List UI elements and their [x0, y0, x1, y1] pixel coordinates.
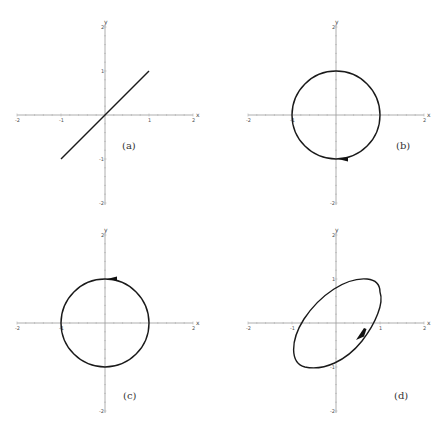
tick-label: -1	[290, 325, 295, 331]
axes	[248, 25, 424, 205]
tick-label: -2	[99, 200, 104, 206]
tick-label: -2	[15, 117, 20, 123]
direction-arrow-icon	[107, 277, 117, 282]
x-axis-label: x	[427, 111, 431, 118]
panel-a: -2 -1 1 2 2 1 -1 -2 x y (a)	[15, 18, 200, 206]
tick-label: -2	[330, 408, 335, 414]
x-axis-label: x	[427, 319, 431, 326]
axes	[17, 233, 193, 413]
tick-label: -2	[99, 408, 104, 414]
x-axis-label: x	[196, 111, 200, 118]
panel-d: -2 -1 1 2 2 1 -1 -2 x y (d)	[246, 226, 431, 414]
panel-c: -2 -1 2 2 -2 x y (c)	[15, 226, 200, 414]
tick-label: -2	[246, 117, 251, 123]
y-axis-label: y	[104, 226, 108, 234]
tick-label: 2	[423, 325, 426, 331]
tick-label: 1	[379, 325, 382, 331]
tick-label: -1	[99, 156, 104, 162]
tick-label: 2	[192, 117, 195, 123]
y-axis-label: y	[335, 18, 339, 26]
direction-arrow-icon	[338, 157, 348, 162]
panel-b: -2 -1 2 2 -2 x y (b)	[246, 18, 431, 206]
figure: -2 -1 1 2 2 1 -1 -2 x y (a) -2 -1 2 2 -2…	[0, 0, 443, 431]
panel-label: (c)	[123, 390, 137, 401]
y-axis-label: y	[104, 18, 108, 26]
tick-label: 1	[332, 276, 335, 282]
axes	[248, 233, 424, 413]
tick-label: -2	[330, 200, 335, 206]
tick-label: -2	[246, 325, 251, 331]
x-axis-label: x	[196, 319, 200, 326]
tick-label: 1	[148, 117, 151, 123]
tick-label: 2	[192, 325, 195, 331]
tick-label: -1	[59, 117, 64, 123]
tick-label: -2	[15, 325, 20, 331]
panel-label: (a)	[122, 140, 136, 151]
tick-label: 2	[423, 117, 426, 123]
y-axis-label: y	[335, 226, 339, 234]
tick-label: 1	[101, 68, 104, 74]
panel-label: (d)	[394, 390, 408, 401]
panel-label: (b)	[396, 140, 410, 151]
